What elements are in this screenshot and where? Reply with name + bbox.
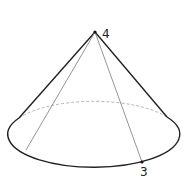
generatrix-to-point-3	[95, 32, 142, 162]
base-visible-arc	[8, 117, 180, 167]
right-silhouette	[95, 32, 167, 117]
generatrix-left	[26, 32, 95, 150]
base-hidden-arc	[19, 101, 167, 118]
left-silhouette	[19, 32, 95, 118]
apex-point	[93, 30, 96, 33]
apex-label: 4	[102, 27, 110, 41]
base-point-label: 3	[140, 165, 148, 179]
cone-diagram: 4 3	[0, 0, 192, 191]
base-point	[140, 160, 143, 163]
